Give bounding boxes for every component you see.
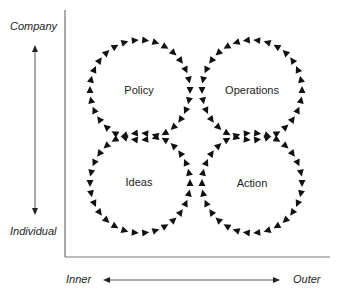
arrowhead-icon: [288, 114, 298, 124]
arrowhead-icon: [253, 36, 261, 44]
x-axis-left-label: Inner: [66, 273, 91, 285]
circle-label-action: Action: [237, 177, 268, 189]
arrowhead-icon: [214, 123, 224, 133]
arrowhead-icon: [293, 105, 302, 114]
arrow-down-icon: [32, 208, 38, 215]
y-axis-top-label: Company: [10, 20, 57, 32]
arrowhead-icon: [102, 216, 112, 226]
arrowhead-icon: [130, 130, 138, 138]
arrowhead-icon: [206, 56, 216, 66]
arrowhead-icon: [187, 179, 194, 186]
arrowhead-icon: [87, 96, 95, 104]
arrowhead-icon: [111, 42, 121, 52]
arrowhead-icon: [243, 129, 251, 137]
arrowhead-icon: [213, 215, 223, 225]
arrowhead-icon: [207, 148, 217, 158]
arrowhead-icon: [201, 66, 210, 75]
arrow-right-icon: [273, 277, 280, 283]
arrowhead-icon: [293, 159, 302, 168]
arrowhead-icon: [273, 135, 283, 145]
arrowhead-icon: [297, 190, 305, 198]
arrowhead-icon: [281, 141, 291, 151]
arrowhead-icon: [169, 48, 179, 58]
arrowhead-icon: [110, 128, 120, 138]
arrowhead-icon: [141, 136, 149, 144]
arrowhead-icon: [222, 42, 232, 52]
arrowhead-icon: [213, 48, 223, 58]
arrowhead-icon: [102, 48, 112, 58]
arrowhead-icon: [175, 148, 185, 158]
arrowhead-icon: [185, 76, 193, 84]
arrowhead-icon: [181, 66, 190, 75]
arrowhead-icon: [201, 198, 210, 207]
circle-label-policy: Policy: [124, 84, 153, 96]
arrowhead-icon: [90, 199, 99, 208]
arrowhead-icon: [293, 65, 302, 74]
x-axis-right-label: Outer: [293, 273, 321, 285]
arrowhead-icon: [121, 226, 130, 235]
arrowhead-icon: [223, 135, 233, 145]
arrowhead-icon: [263, 226, 272, 235]
arrowhead-icon: [202, 158, 211, 167]
arrowhead-icon: [95, 208, 105, 218]
arrowhead-icon: [110, 135, 120, 145]
arrowhead-icon: [94, 114, 104, 124]
arrowhead-icon: [87, 180, 94, 187]
arrowhead-icon: [142, 37, 150, 45]
arrowhead-icon: [199, 168, 207, 176]
arrowhead-icon: [223, 129, 233, 139]
arrowhead-icon: [222, 221, 232, 231]
arrowhead-icon: [297, 96, 305, 104]
arrowhead-icon: [232, 226, 241, 235]
arrowhead-icon: [89, 159, 98, 168]
arrowhead-icon: [175, 115, 185, 125]
arrowhead-icon: [287, 208, 297, 218]
arrowhead-icon: [169, 215, 179, 225]
arrowhead-icon: [168, 123, 178, 133]
arrowhead-icon: [161, 42, 171, 52]
arrowhead-icon: [152, 38, 161, 47]
arrowhead-icon: [161, 221, 171, 231]
arrowhead-icon: [87, 75, 95, 83]
arrowhead-icon: [168, 141, 178, 151]
arrowhead-icon: [89, 105, 98, 114]
arrowhead-icon: [90, 65, 99, 74]
arrowhead-icon: [131, 229, 139, 237]
arrowhead-icon: [206, 207, 216, 217]
arrowhead-icon: [176, 207, 186, 217]
arrowhead-icon: [130, 136, 138, 144]
arrowhead-icon: [185, 97, 193, 105]
arrowhead-icon: [299, 86, 306, 93]
arrowhead-icon: [141, 129, 149, 137]
arrowhead-icon: [160, 129, 170, 139]
arrowhead-icon: [288, 149, 298, 159]
arrowhead-icon: [280, 48, 290, 58]
arrowhead-icon: [185, 189, 193, 197]
arrowhead-icon: [152, 226, 161, 235]
arrowhead-icon: [214, 141, 224, 151]
arrowhead-icon: [95, 55, 105, 65]
arrowhead-icon: [87, 190, 95, 198]
arrowhead-icon: [121, 38, 130, 47]
arrowhead-icon: [287, 55, 297, 65]
arrowhead-icon: [242, 229, 250, 237]
circle-label-operations: Operations: [225, 84, 279, 96]
arrowhead-icon: [273, 128, 283, 138]
arrowhead-icon: [280, 216, 290, 226]
y-axis-bottom-label: Individual: [10, 225, 56, 237]
circle-label-ideas: Ideas: [126, 176, 153, 188]
arrowhead-icon: [199, 76, 207, 84]
arrowhead-icon: [101, 122, 111, 132]
arrowhead-icon: [181, 106, 190, 115]
arrowhead-icon: [297, 75, 305, 83]
arrowhead-icon: [101, 141, 111, 151]
arrowhead-icon: [199, 189, 207, 197]
arrowhead-icon: [185, 168, 193, 176]
arrowhead-icon: [87, 86, 94, 93]
arrowhead-icon: [176, 56, 186, 66]
arrowhead-icon: [160, 135, 170, 145]
arrowhead-icon: [199, 87, 206, 94]
arrowhead-icon: [263, 38, 272, 47]
arrowhead-icon: [272, 222, 282, 232]
arrowhead-icon: [111, 222, 121, 232]
